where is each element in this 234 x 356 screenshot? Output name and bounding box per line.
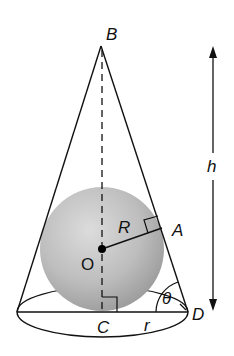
arrow-up-icon [209,46,217,58]
label-r-sphere: R [118,218,130,237]
center-point-o [98,245,106,253]
cone-sphere-diagram: B A R O C r D θ h [0,0,234,356]
label-theta: θ [162,289,172,308]
label-d: D [192,305,204,324]
label-o: O [81,255,94,274]
label-a: A [171,221,183,240]
label-h: h [207,157,216,176]
label-b: B [106,25,117,44]
arrow-down-icon [209,299,217,311]
label-c: C [97,318,110,337]
